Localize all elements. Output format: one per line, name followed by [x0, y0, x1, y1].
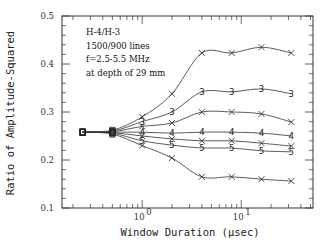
data-point-marker: 5: [169, 140, 174, 150]
data-point-marker: 5: [259, 146, 264, 156]
y-tick-label: 0.5: [40, 11, 54, 21]
annotation-line: 1500/900 lines: [86, 41, 150, 51]
data-point-marker: 5: [199, 143, 204, 153]
data-point-marker: 3: [169, 107, 174, 117]
y-tick-label: 0.4: [40, 59, 54, 69]
series-group: 333333444444555555: [80, 44, 294, 184]
y-axis-title: Ratio of Amplitude-Squared: [4, 31, 16, 195]
data-point-marker: 3: [289, 89, 294, 99]
data-point-marker: 3: [229, 87, 234, 97]
data-point-marker: 4: [229, 127, 234, 137]
annotation-line: H-4/H-3: [86, 27, 120, 37]
x-tick-exponent: 1: [245, 207, 250, 217]
data-point-marker: 4: [199, 127, 204, 137]
series-line: [83, 89, 292, 132]
y-axis: 0.10.20.30.40.5: [40, 11, 313, 213]
data-point-marker: [169, 155, 175, 161]
y-tick-label: 0.3: [40, 107, 54, 117]
line-chart: 0.10.20.30.40.5 100101 33333344444455555…: [0, 0, 330, 248]
data-point-marker: [199, 50, 205, 56]
annotation-line: at depth of 29 mm: [86, 68, 165, 78]
data-point-marker: 3: [199, 87, 204, 97]
data-point-marker: [169, 91, 175, 97]
y-tick-label: 0.2: [40, 155, 54, 165]
x-axis-title: Window Duration (µsec): [120, 226, 259, 238]
data-point-marker: 3: [139, 117, 144, 127]
series-line: [83, 132, 292, 181]
data-point-marker: [288, 50, 294, 56]
data-point-marker: [169, 120, 175, 126]
data-point-marker: 5: [229, 143, 234, 153]
data-point-marker: 4: [289, 131, 294, 141]
annotation-box: H-4/H-31500/900 linesf=2.5-5.5 MHzat dep…: [86, 27, 165, 78]
data-point-marker: 4: [259, 128, 264, 138]
data-point-marker: [199, 174, 205, 180]
data-point-marker: 3: [259, 84, 264, 94]
data-point-marker: [288, 119, 294, 125]
x-tick-exponent: 0: [146, 207, 151, 217]
x-tick-label: 10: [233, 212, 244, 222]
data-point-marker: 5: [289, 147, 294, 157]
y-tick-label: 0.1: [40, 203, 54, 213]
annotation-line: f=2.5-5.5 MHz: [86, 54, 150, 64]
data-point-marker: 5: [139, 136, 144, 146]
x-tick-label: 10: [134, 212, 145, 222]
